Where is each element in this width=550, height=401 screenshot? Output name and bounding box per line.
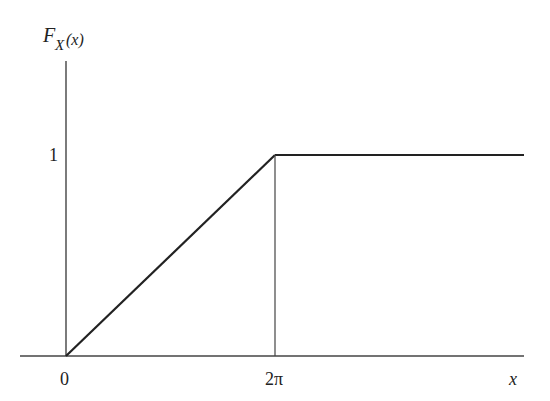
y-tick-label-1: 1	[49, 145, 58, 165]
cdf-chart: F X (x) 1 0 2π x	[0, 0, 550, 401]
cdf-ramp-segment	[66, 155, 275, 356]
y-axis-label-arg: (x)	[66, 31, 84, 49]
y-axis-label: F	[42, 24, 56, 46]
x-axis-label: x	[508, 369, 517, 389]
x-tick-label-0: 0	[60, 369, 69, 389]
y-axis-label-subscript: X	[54, 37, 65, 53]
x-tick-label-2pi: 2π	[265, 369, 283, 389]
